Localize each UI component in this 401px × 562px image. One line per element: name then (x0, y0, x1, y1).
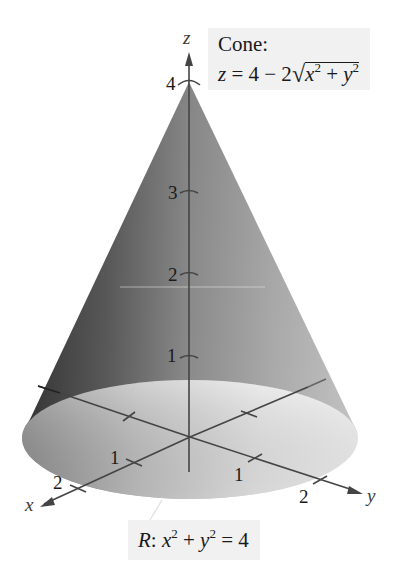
radicand: x2 + y2 (305, 62, 359, 84)
cone-equation-label: Cone: z = 4 − 2√x2 + y2 (208, 28, 370, 90)
rad-plus: + (321, 62, 343, 86)
cone-equation: z = 4 − 2√x2 + y2 (218, 60, 359, 87)
rad-y-exp: 2 (353, 60, 360, 75)
z-axis-label: z (183, 27, 190, 49)
region-equation: R: x2 + y2 = 4 (138, 528, 249, 553)
z-tick-4: 4 (166, 73, 176, 95)
region-name: R (138, 528, 151, 552)
x-axis-label: x (25, 494, 33, 516)
z-tick-2: 2 (168, 264, 178, 286)
eq-mid: = 4 − 2 (226, 62, 292, 86)
x-arrow-icon (40, 497, 55, 507)
sqrt: √x2 + y2 (292, 60, 359, 87)
y-axis-label: y (367, 485, 375, 507)
y-arrow-icon (347, 486, 363, 494)
z-tick-1: 1 (167, 345, 177, 367)
region-rhs: = 4 (216, 528, 249, 552)
rad-x: x (305, 62, 314, 86)
region-equation-label: R: x2 + y2 = 4 (128, 520, 260, 560)
y-tick-2: 2 (299, 486, 309, 508)
sqrt-icon: √ (292, 61, 305, 88)
region-x: x (162, 528, 171, 552)
eq-lhs: z (218, 62, 226, 86)
region-colon: : (151, 528, 162, 552)
region-plus: + (178, 528, 200, 552)
x-tick-1: 1 (110, 447, 120, 469)
z-tick-3: 3 (168, 182, 178, 204)
z-arrow-icon (185, 52, 193, 66)
cone-label-title: Cone: (218, 32, 268, 57)
leader-line (150, 500, 162, 520)
x-tick-2: 2 (53, 472, 63, 494)
y-tick-1: 1 (234, 464, 244, 486)
rad-y: y (343, 62, 352, 86)
cone-figure: z x y 1 2 3 4 1 2 1 2 Cone: z = 4 − 2√x2… (0, 0, 401, 562)
